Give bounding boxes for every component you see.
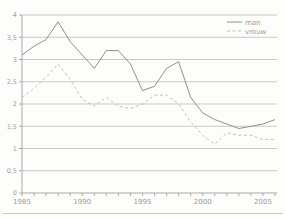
y-tick-label: 3	[13, 56, 17, 64]
y-tick-label: 2,5	[7, 78, 17, 86]
legend-item-vrouw: vrouw	[227, 28, 267, 36]
y-tick-label: 3,5	[7, 34, 17, 42]
y-tick-label: 0	[13, 189, 17, 197]
y-tick-label: 0,5	[7, 167, 17, 175]
x-tick-label: 2000	[194, 198, 212, 206]
x-tick-label: 1985	[13, 198, 31, 206]
x-tick-label: 1990	[73, 198, 91, 206]
legend-item-man: man	[227, 19, 261, 27]
y-tick-label: 2	[13, 100, 17, 108]
legend: manvrouw	[227, 19, 267, 36]
line-chart: 00,511,522,533,5419851990199520002005man…	[0, 0, 285, 218]
x-tick-label: 1995	[134, 198, 152, 206]
y-tick-label: 4	[13, 11, 17, 19]
y-tick-label: 1	[13, 145, 17, 153]
legend-label-man: man	[245, 19, 261, 27]
y-tick-label: 1,5	[7, 123, 17, 131]
chart-page: 00,511,522,533,5419851990199520002005man…	[0, 0, 285, 218]
legend-label-vrouw: vrouw	[245, 28, 267, 36]
x-tick-label: 2005	[254, 198, 272, 206]
